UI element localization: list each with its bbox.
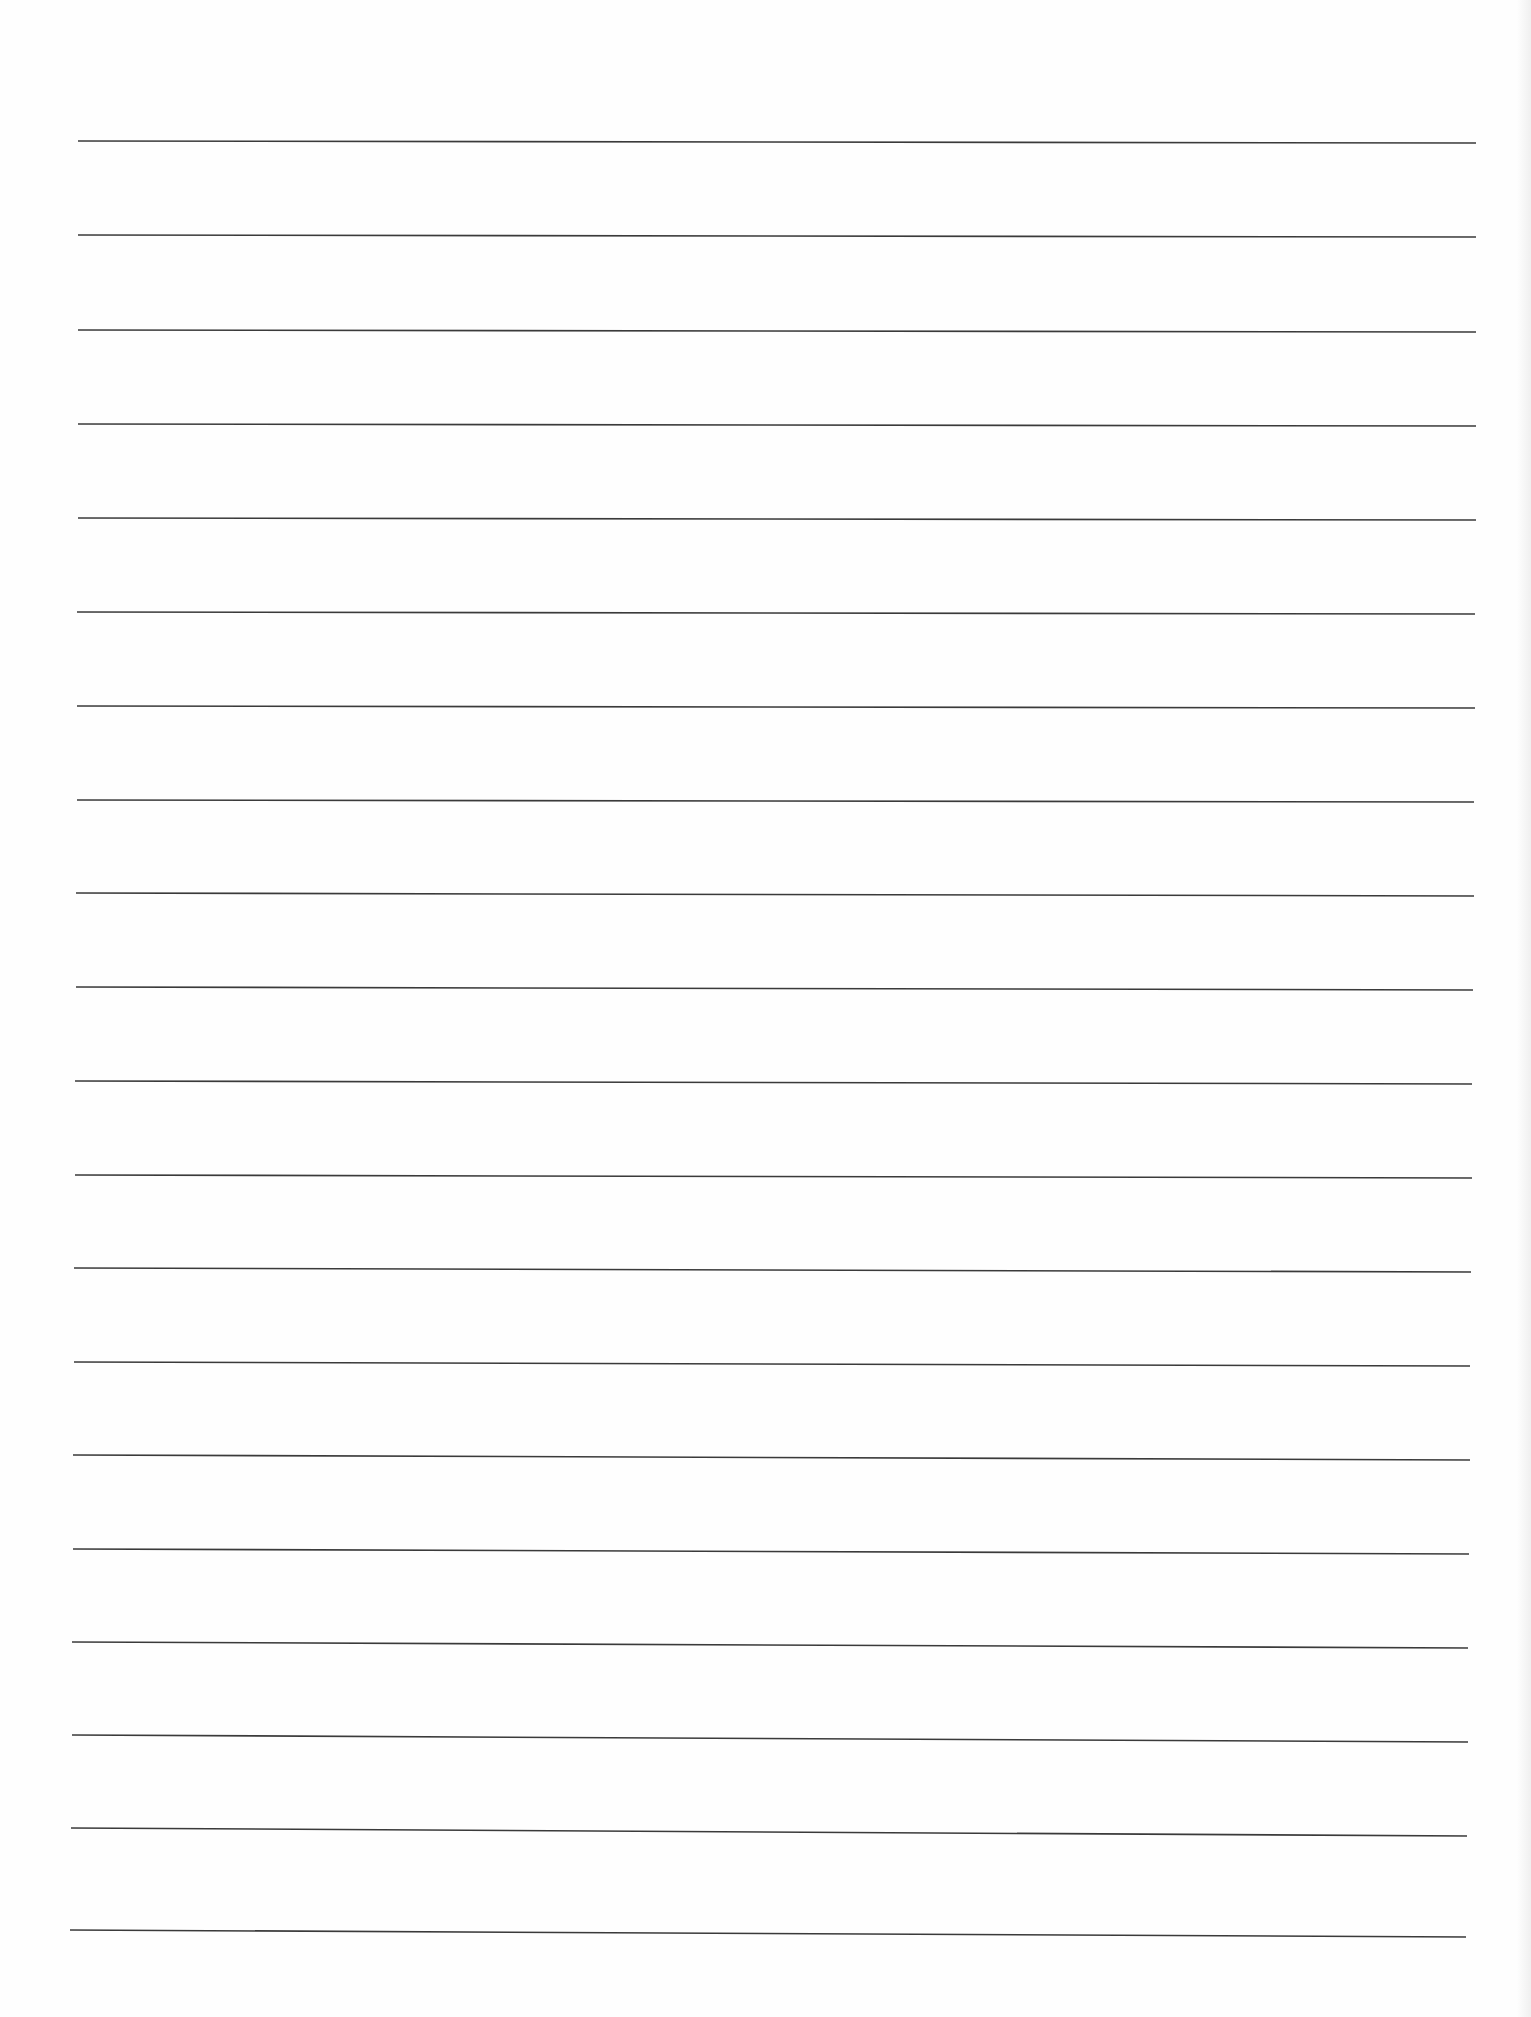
lined-paper-page	[0, 0, 1531, 2017]
ruled-line-4	[78, 424, 1476, 426]
ruled-lines	[0, 0, 1531, 2017]
ruled-line-11	[75, 1081, 1472, 1084]
ruled-line-9	[76, 893, 1474, 896]
ruled-line-5	[78, 518, 1476, 520]
ruled-line-6	[77, 612, 1475, 614]
ruled-line-17	[72, 1642, 1468, 1648]
ruled-line-18	[72, 1735, 1468, 1742]
ruled-line-20	[70, 1930, 1466, 1937]
ruled-line-19	[71, 1828, 1467, 1836]
ruled-line-3	[78, 330, 1476, 332]
ruled-line-7	[77, 706, 1475, 708]
ruled-line-10	[76, 987, 1473, 990]
ruled-line-15	[73, 1455, 1470, 1460]
ruled-line-2	[78, 235, 1476, 237]
ruled-line-14	[74, 1362, 1470, 1366]
ruled-line-16	[73, 1549, 1469, 1554]
ruled-line-1	[78, 141, 1476, 143]
ruled-line-12	[75, 1175, 1472, 1178]
ruled-line-8	[77, 800, 1474, 802]
ruled-line-13	[74, 1268, 1471, 1272]
